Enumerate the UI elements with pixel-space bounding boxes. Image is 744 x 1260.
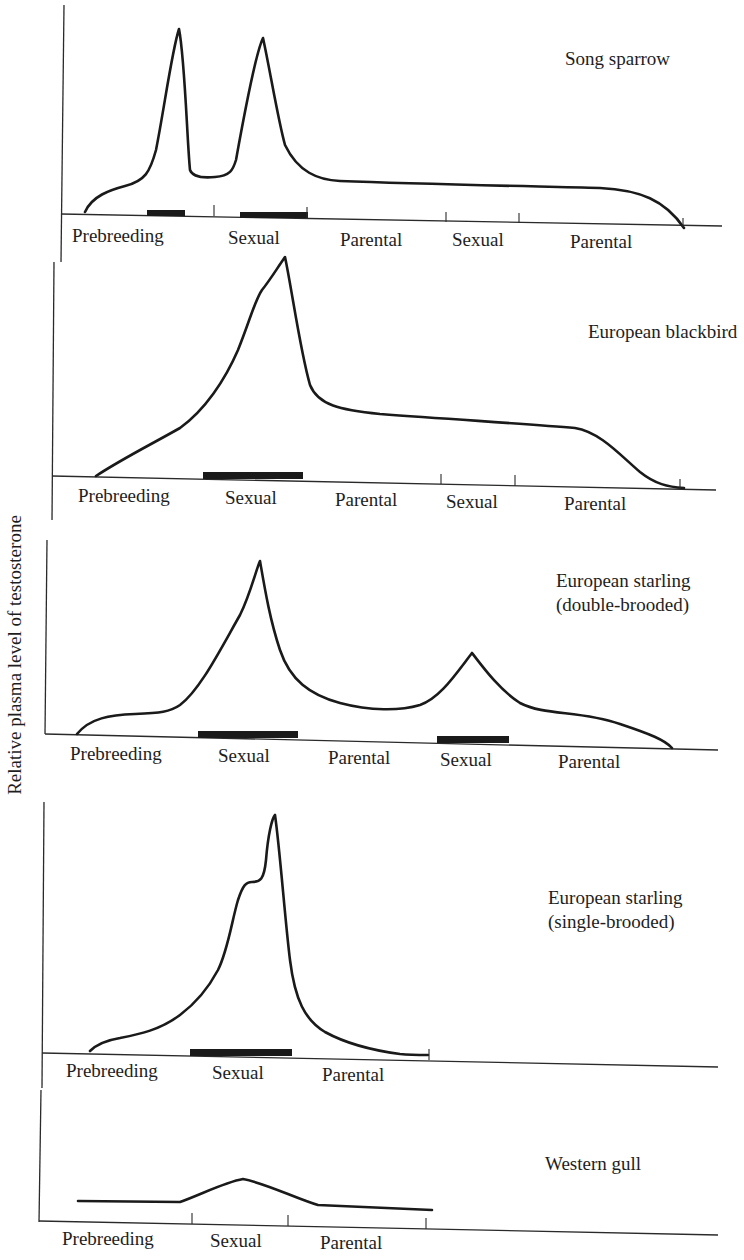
phase-label: Parental <box>335 489 397 510</box>
territorial-bar <box>203 472 303 479</box>
phase-label: Sexual <box>440 749 492 770</box>
species-sublabel: (single-brooded) <box>548 911 675 933</box>
phase-label: Sexual <box>228 227 280 248</box>
species-label: European blackbird <box>588 321 738 342</box>
phase-label: Sexual <box>446 491 498 512</box>
species-label: Western gull <box>545 1153 641 1174</box>
panel-european-starling-single: Prebreeding Sexual Parental European sta… <box>42 802 718 1088</box>
phase-label: Prebreeding <box>66 1060 158 1081</box>
phase-label: Prebreeding <box>78 485 170 506</box>
phase-label: Prebreeding <box>70 743 162 764</box>
species-label: European starling <box>556 570 691 591</box>
y-axis <box>52 262 54 520</box>
phase-label: Parental <box>328 747 390 768</box>
y-axis <box>45 540 47 734</box>
testosterone-profiles-figure: Relative plasma level of testosterone Pr… <box>0 0 744 1260</box>
phase-label: Parental <box>558 751 620 772</box>
phase-label: Prebreeding <box>72 225 164 246</box>
y-axis <box>61 5 64 262</box>
testosterone-curve <box>90 815 428 1055</box>
phase-label: Parental <box>320 1232 382 1253</box>
territorial-bar <box>198 731 298 738</box>
panel-western-gull: Prebreeding Sexual Parental Western gull <box>39 1090 718 1253</box>
species-label: Song sparrow <box>565 48 670 69</box>
phase-label: Parental <box>564 493 626 514</box>
y-axis <box>39 1090 41 1222</box>
phase-label: Prebreeding <box>62 1228 154 1249</box>
testosterone-curve <box>78 1179 432 1210</box>
territorial-bar <box>190 1049 292 1056</box>
testosterone-curve <box>96 257 684 488</box>
y-axis <box>42 802 44 1088</box>
phase-label: Sexual <box>452 229 504 250</box>
species-sublabel: (double-brooded) <box>556 594 689 616</box>
phase-label: Sexual <box>212 1062 264 1083</box>
phase-label: Parental <box>340 229 402 250</box>
y-axis-label: Relative plasma level of testosterone <box>4 515 25 795</box>
territorial-bar <box>240 212 308 218</box>
panel-european-starling-double: Prebreeding Sexual Parental Sexual Paren… <box>45 540 718 772</box>
phase-label: Parental <box>322 1064 384 1085</box>
phase-label: Sexual <box>225 487 277 508</box>
phase-label: Sexual <box>218 745 270 766</box>
panel-european-blackbird: Prebreeding Sexual Parental Sexual Paren… <box>52 257 738 520</box>
species-label: European starling <box>548 887 683 908</box>
territorial-bar <box>147 210 185 216</box>
territorial-bar <box>437 736 509 743</box>
panel-song-sparrow: Prebreeding Sexual Parental Sexual Paren… <box>61 5 722 262</box>
phase-label: Sexual <box>210 1230 262 1251</box>
phase-label: Parental <box>570 231 632 252</box>
